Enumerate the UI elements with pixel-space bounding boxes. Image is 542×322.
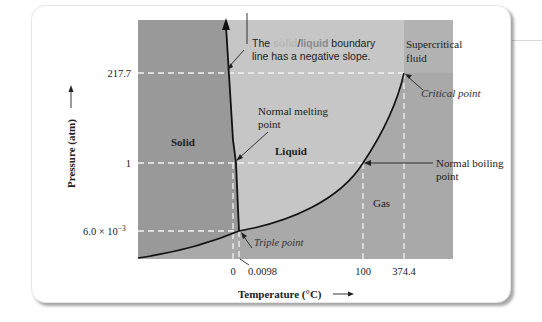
y-axis-label: Pressure (atm) — [65, 119, 78, 188]
y-tick-1: 1 — [126, 158, 131, 169]
y-tick-triple-pressure: 6.0 × 10−3 — [83, 224, 126, 237]
critical-point-label: Critical point — [421, 87, 482, 99]
region-label-supercritical-2: fluid — [406, 52, 427, 64]
x-tick-0: 0 — [230, 266, 235, 277]
boiling-point-label-2: point — [436, 170, 459, 182]
x-tick-374-4: 374.4 — [392, 266, 416, 277]
region-label-solid: Solid — [171, 136, 195, 148]
boiling-point-label-1: Normal boiling — [436, 157, 504, 169]
x-axis-arrow-icon — [333, 292, 354, 297]
y-tick-217-7: 217.7 — [107, 68, 131, 79]
region-label-gas: Gas — [373, 197, 390, 209]
y-axis-arrow-icon — [69, 85, 74, 108]
triple-point-label: Triple point — [254, 237, 304, 248]
x-axis-label: Temperature (°C) — [238, 288, 322, 301]
phase-diagram: Solid Liquid Gas Supercritical fluid The… — [0, 0, 542, 322]
x-tick-100: 100 — [355, 266, 371, 277]
region-label-liquid: Liquid — [275, 145, 307, 157]
region-label-supercritical-1: Supercritical — [406, 38, 462, 50]
slope-note-line1: The solid/liquid boundary — [252, 37, 376, 49]
melting-point-label-1: Normal melting — [258, 105, 328, 117]
melting-point-label-2: point — [258, 118, 281, 130]
x-tick-0-0098: 0.0098 — [248, 266, 277, 277]
slope-note-line2: line has a negative slope. — [252, 50, 371, 62]
